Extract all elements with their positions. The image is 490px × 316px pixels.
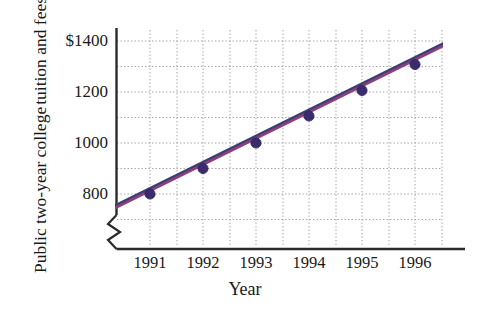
x-tick-1996: 1996 — [380, 254, 450, 271]
chart-figure: Public two-year college tuition and fees… — [0, 0, 490, 316]
x-axis-title: Year — [145, 279, 345, 300]
x-axis-tick-labels: 1991 1992 1993 1994 1995 1996 — [0, 0, 490, 316]
